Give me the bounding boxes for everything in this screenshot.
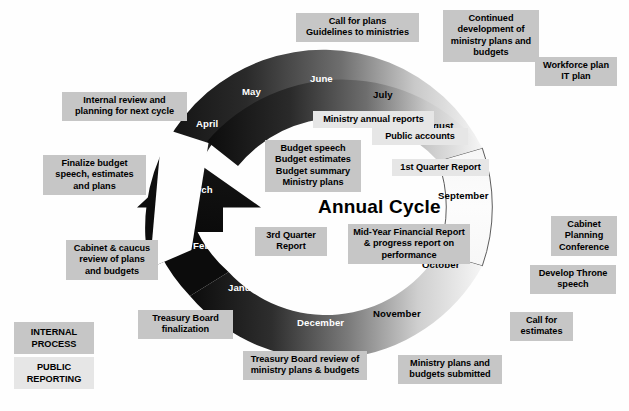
box-public-accounts: Public accounts: [372, 128, 468, 145]
box-mid-year-financial-report: Mid-Year Financial Report & progress rep…: [348, 224, 470, 264]
month-label-february: February: [193, 240, 235, 251]
box-ministry-plans-submitted: Ministry plans and budgets submitted: [398, 355, 502, 384]
box-3rd-quarter-report: 3rd Quarter Report: [255, 227, 327, 256]
box-ministry-annual-reports: Ministry annual reports: [313, 111, 434, 128]
box-cabinet-caucus-review: Cabinet & caucus review of plans and bud…: [66, 240, 158, 280]
box-budget-documents: Budget speech Budget estimates Budget su…: [265, 140, 361, 192]
box-treasury-board-finalization: Treasury Board finalization: [138, 310, 233, 339]
page-title: Annual Cycle: [318, 196, 441, 218]
legend-public-reporting: PUBLIC REPORTING: [14, 357, 94, 389]
month-label-september: September: [438, 190, 489, 201]
box-call-for-plans: Call for plans Guidelines to ministries: [296, 13, 419, 42]
box-develop-throne-speech: Develop Throne speech: [530, 265, 616, 294]
annual-cycle-diagram: AprilMayJuneJulyAugustSeptemberOctoberNo…: [0, 0, 629, 411]
box-workforce-it-plan: Workforce plan IT plan: [535, 57, 617, 86]
month-label-november: November: [373, 308, 421, 319]
box-1st-quarter-report: 1st Quarter Report: [392, 159, 489, 176]
box-treasury-board-review: Treasury Board review of ministry plans …: [243, 351, 367, 380]
month-label-may: May: [242, 86, 261, 97]
month-label-june: June: [310, 73, 333, 84]
box-cabinet-planning-conference: Cabinet Planning Conference: [551, 216, 617, 256]
month-label-april: April: [196, 118, 218, 129]
box-internal-review: Internal review and planning for next cy…: [62, 92, 187, 121]
month-label-january: January: [228, 282, 266, 293]
legend-internal-process: INTERNAL PROCESS: [14, 322, 94, 354]
month-label-march: March: [184, 184, 213, 195]
box-call-for-estimates: Call for estimates: [510, 312, 573, 341]
month-label-december: December: [297, 317, 344, 328]
box-finalize-budget: Finalize budget speech, estimates and pl…: [43, 155, 146, 195]
box-continued-development: Continued development of ministry plans …: [443, 10, 539, 62]
month-label-july: July: [373, 89, 393, 100]
